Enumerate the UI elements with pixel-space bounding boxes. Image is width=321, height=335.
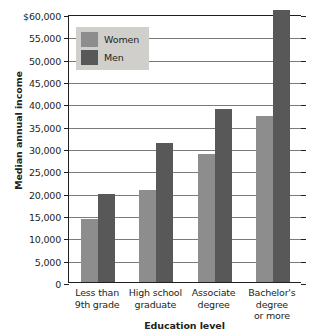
y-axis-tick-label: 55,000 — [29, 33, 61, 44]
bar-men — [156, 143, 173, 282]
bar-women — [198, 154, 215, 282]
y-axis-tick-label: 10,000 — [29, 234, 61, 245]
y-axis-tick-label: 5,000 — [35, 256, 61, 267]
bar-women — [81, 219, 98, 282]
x-axis-title: Education level — [68, 320, 301, 331]
legend-label-men: Men — [104, 52, 124, 63]
y-axis-tick-label: 40,000 — [29, 100, 61, 111]
x-axis-tick-label: Less than9th grade — [68, 287, 126, 310]
y-axis-tick — [64, 284, 69, 285]
legend-item-women: Women — [81, 32, 139, 47]
y-axis-tick-label: 30,000 — [29, 145, 61, 156]
x-axis-tick-label: Associatedegree — [185, 287, 243, 310]
y-axis-tick-label: 25,000 — [29, 167, 61, 178]
bar-men — [273, 10, 290, 282]
bar-group — [186, 16, 244, 282]
y-axis-tick-right — [301, 284, 306, 285]
chart-legend: Women Men — [76, 27, 149, 70]
bar-men — [215, 109, 232, 282]
bar-women — [256, 116, 273, 282]
bar-chart: Median annual income $60,00055,00050,000… — [0, 0, 321, 335]
legend-item-men: Men — [81, 50, 139, 65]
bar-group — [244, 16, 302, 282]
y-axis-tick-label: 35,000 — [29, 122, 61, 133]
x-axis-tick-label: High schoolgraduate — [126, 287, 184, 310]
y-axis-title: Median annual income — [13, 51, 24, 211]
y-axis-tick-label: 45,000 — [29, 78, 61, 89]
y-axis-tick-label: 15,000 — [29, 212, 61, 223]
bar-women — [139, 190, 156, 282]
y-axis-tick-label: 0 — [55, 279, 61, 290]
bar-men — [98, 194, 115, 282]
legend-swatch-women — [81, 32, 98, 47]
y-axis-tick-label: 50,000 — [29, 55, 61, 66]
legend-label-women: Women — [104, 34, 139, 45]
legend-swatch-men — [81, 50, 98, 65]
x-axis-tick-label: Bachelor'sdegreeor more — [243, 287, 301, 322]
y-axis-tick-label: 20,000 — [29, 189, 61, 200]
y-axis-tick-label: $60,000 — [23, 11, 61, 22]
